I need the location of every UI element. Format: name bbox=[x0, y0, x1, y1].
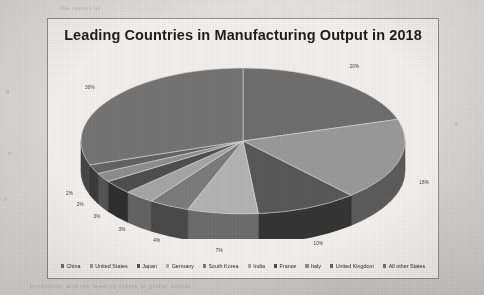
legend-item[interactable]: France bbox=[274, 263, 296, 269]
legend-item[interactable]: United States bbox=[90, 263, 128, 269]
page-title: Leading Countries in Manufacturing Outpu… bbox=[48, 27, 438, 43]
legend-item[interactable]: United Kingdom bbox=[330, 263, 374, 269]
background-artifact: ll bbox=[4, 196, 8, 202]
legend-label: Germany bbox=[172, 263, 194, 269]
legend-label: India bbox=[253, 263, 265, 269]
pie-chart: 20%18%10%7%4%3%3%2%2%30% bbox=[48, 49, 438, 239]
pie-data-label: 3% bbox=[119, 226, 126, 231]
legend-label: Italy bbox=[311, 263, 321, 269]
pie-data-label: 10% bbox=[313, 240, 323, 245]
legend-label: Japan bbox=[142, 263, 157, 269]
legend-label: United States bbox=[95, 263, 127, 269]
pie-top-faces bbox=[81, 68, 405, 214]
legend-item[interactable]: India bbox=[248, 263, 265, 269]
legend-label: China bbox=[66, 263, 80, 269]
pie-data-label: 2% bbox=[66, 191, 73, 196]
pie-data-label: 20% bbox=[350, 64, 360, 69]
legend-item[interactable]: Japan bbox=[137, 263, 157, 269]
legend-swatch-icon bbox=[383, 264, 386, 267]
pie-data-label: 2% bbox=[77, 202, 84, 207]
pie-data-label: 18% bbox=[419, 180, 429, 185]
chart-frame: Leading Countries in Manufacturing Outpu… bbox=[47, 18, 439, 279]
legend-swatch-icon bbox=[166, 264, 169, 267]
legend-swatch-icon bbox=[61, 264, 64, 267]
background-artifact: it bbox=[8, 150, 12, 156]
background-artifact: e bbox=[455, 120, 459, 126]
legend-item[interactable]: China bbox=[61, 263, 81, 269]
background-artifact: a bbox=[6, 88, 10, 94]
legend-swatch-icon bbox=[330, 264, 333, 267]
pie-data-label: 4% bbox=[153, 238, 160, 243]
background-artifact: production and the leading states in glo… bbox=[30, 283, 191, 289]
legend-swatch-icon bbox=[305, 264, 308, 267]
pie-data-label: 7% bbox=[216, 247, 223, 252]
legend-swatch-icon bbox=[274, 264, 277, 267]
pie-chart-svg bbox=[48, 49, 438, 239]
pie-data-label: 30% bbox=[85, 85, 95, 90]
legend-swatch-icon bbox=[248, 264, 251, 267]
legend-label: France bbox=[280, 263, 297, 269]
legend-item[interactable]: South Korea bbox=[203, 263, 239, 269]
legend-item[interactable]: All other States bbox=[383, 263, 425, 269]
chart-legend: ChinaUnited StatesJapanGermanySouth Kore… bbox=[48, 263, 438, 269]
legend-swatch-icon bbox=[90, 264, 93, 267]
legend-item[interactable]: Germany bbox=[166, 263, 194, 269]
legend-label: South Korea bbox=[209, 263, 239, 269]
legend-item[interactable]: Italy bbox=[305, 263, 321, 269]
legend-label: All other States bbox=[389, 263, 426, 269]
legend-swatch-icon bbox=[137, 264, 140, 267]
background-artifact: the report of bbox=[60, 5, 100, 11]
legend-label: United Kingdom bbox=[336, 263, 374, 269]
legend-swatch-icon bbox=[203, 264, 206, 267]
pie-data-label: 3% bbox=[94, 214, 101, 219]
